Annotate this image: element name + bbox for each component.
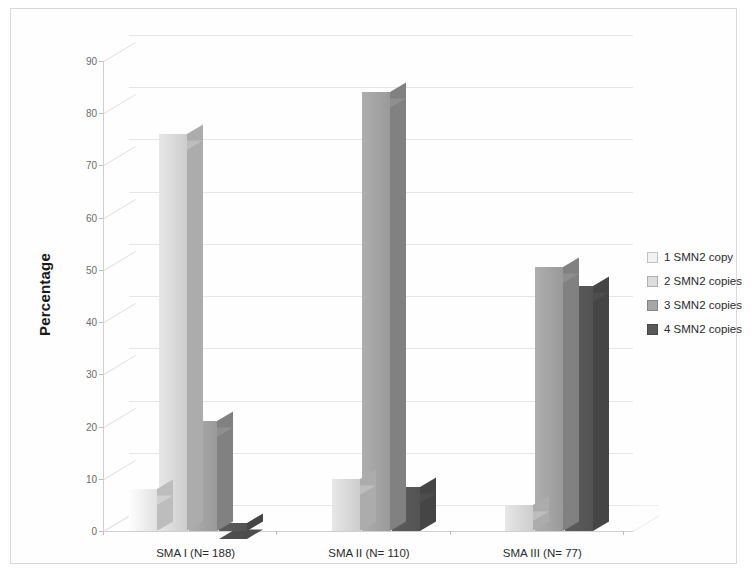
legend-item-1[interactable]: 1 SMN2 copy [647, 245, 742, 269]
legend-label: 4 SMN2 copies [664, 323, 742, 335]
gridline-depth-edge [104, 147, 136, 167]
bar-front-face [332, 479, 360, 531]
y-axis-tick-mark [99, 374, 103, 375]
gridline-depth-edge [104, 408, 136, 428]
bar-front-face [535, 267, 563, 531]
floor-right-edge [633, 515, 660, 532]
x-axis-line [103, 531, 633, 532]
bar-side-face [420, 477, 436, 531]
bar-3-3 [535, 267, 563, 531]
x-axis-category-label: SMA I (N= 188) [109, 547, 282, 559]
bar-2-2 [332, 479, 360, 531]
legend-label: 3 SMN2 copies [664, 299, 742, 311]
y-axis-tick-label: 10 [73, 474, 97, 485]
gridline-depth-edge [104, 42, 136, 62]
y-axis-title-label: Percentage [36, 253, 53, 336]
legend-item-2[interactable]: 2 SMN2 copies [647, 269, 742, 293]
legend-swatch-icon [647, 300, 658, 311]
y-axis-tick-mark [99, 427, 103, 428]
y-axis-tick-label: 50 [73, 265, 97, 276]
y-axis-tick-mark [99, 270, 103, 271]
chart-legend: 1 SMN2 copy2 SMN2 copies3 SMN2 copies4 S… [647, 245, 742, 341]
gridline-depth-edge [104, 199, 136, 219]
gridline [129, 87, 633, 88]
y-axis-tick-mark [99, 113, 103, 114]
x-axis-tick-mark [103, 531, 104, 535]
gridline-depth-edge [104, 460, 136, 480]
y-axis-line [103, 61, 104, 531]
legend-swatch-icon [647, 276, 658, 287]
legend-swatch-icon [647, 252, 658, 263]
gridline-depth-edge [104, 355, 136, 375]
y-axis-tick-mark [99, 61, 103, 62]
x-axis-tick-mark [623, 531, 624, 535]
legend-item-3[interactable]: 3 SMN2 copies [647, 293, 742, 317]
bar-3-2 [505, 505, 533, 531]
x-axis-category-label: SMA II (N= 110) [282, 547, 455, 559]
bar-front-face [159, 134, 187, 531]
x-axis-tick-mark [450, 531, 451, 535]
bar-1-1 [129, 489, 157, 531]
legend-swatch-icon [647, 324, 658, 335]
bar-side-face [563, 258, 579, 531]
gridline [129, 35, 633, 36]
chart-frame: Percentage 9080706050403020100 SMA I (N=… [10, 8, 737, 564]
y-axis-tick-mark [99, 479, 103, 480]
y-axis-tick-label: 60 [73, 213, 97, 224]
y-axis-tick-label: 30 [73, 369, 97, 380]
gridline-depth-edge [104, 303, 136, 323]
y-axis-tick-label: 70 [73, 160, 97, 171]
y-axis-tick-label: 40 [73, 317, 97, 328]
gridline-depth-edge [104, 251, 136, 271]
y-axis-tick-label: 0 [73, 526, 97, 537]
legend-label: 1 SMN2 copy [664, 251, 733, 263]
x-axis-category-label: SMA III (N= 77) [456, 547, 629, 559]
y-axis-tick-mark [99, 218, 103, 219]
y-axis-tick-mark [99, 165, 103, 166]
plot-area: 9080706050403020100 SMA I (N= 188)SMA II… [73, 49, 633, 549]
bar-side-face [390, 83, 406, 531]
y-axis-title: Percentage [29, 204, 59, 384]
bar-side-face [187, 125, 203, 531]
bar-front-face [505, 505, 533, 531]
legend-label: 2 SMN2 copies [664, 275, 742, 287]
x-axis-tick-mark [276, 531, 277, 535]
y-axis-tick-mark [99, 322, 103, 323]
bar-side-face [247, 514, 263, 531]
y-axis-tick-label: 80 [73, 108, 97, 119]
bar-side-face [593, 276, 609, 531]
bar-2-3 [362, 92, 390, 531]
gridline-depth-edge [104, 94, 136, 114]
legend-item-4[interactable]: 4 SMN2 copies [647, 317, 742, 341]
bar-front-face [362, 92, 390, 531]
bar-1-2 [159, 134, 187, 531]
bar-front-face [129, 489, 157, 531]
y-axis-tick-label: 20 [73, 422, 97, 433]
y-axis-tick-label: 90 [73, 56, 97, 67]
bar-side-face [360, 469, 376, 531]
